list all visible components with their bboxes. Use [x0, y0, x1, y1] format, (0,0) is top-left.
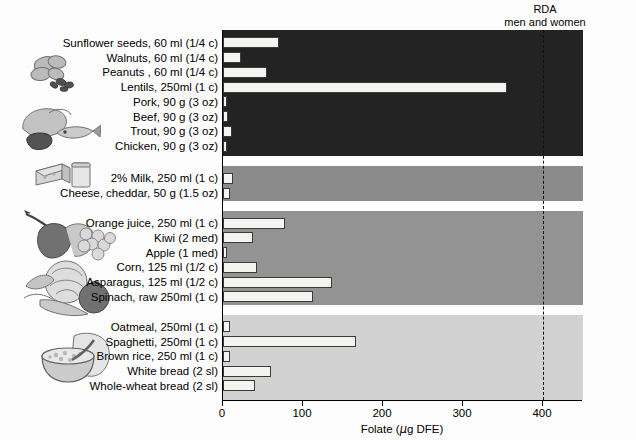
category-label-column: Sunflower seeds, 60 ml (1/4 c)Walnuts, 6… — [0, 0, 222, 440]
bar — [223, 321, 230, 332]
category-label: Cheese, cheddar, 50 g (1.5 oz) — [4, 187, 222, 199]
bar — [223, 380, 255, 391]
x-axis-tick — [222, 401, 223, 406]
category-label: White bread (2 sl) — [4, 365, 222, 377]
x-axis-title: Folate (µg DFE) — [222, 422, 582, 436]
x-axis-title-prefix: Folate ( — [361, 423, 400, 435]
category-label: Spinach, raw 250ml (1 c) — [4, 291, 222, 303]
food-group-band — [223, 30, 583, 156]
bar — [223, 188, 230, 199]
x-axis-tick-label: 200 — [372, 407, 391, 419]
x-axis-tick-label: 300 — [452, 407, 471, 419]
bar — [223, 336, 356, 347]
bar — [223, 262, 257, 273]
x-axis-tick — [302, 401, 303, 406]
category-label: Apple (1 med) — [4, 247, 222, 259]
x-axis: 0100200300400 — [222, 400, 582, 402]
category-label: Sunflower seeds, 60 ml (1/4 c) — [4, 37, 222, 49]
category-label: Kiwi (2 med) — [4, 232, 222, 244]
category-label: Beef, 90 g (3 oz) — [4, 111, 222, 123]
rda-label-line2: men and women — [470, 16, 620, 29]
bar — [223, 126, 232, 137]
x-axis-tick — [542, 401, 543, 406]
bar — [223, 291, 313, 302]
bar — [223, 82, 507, 93]
category-label: Oatmeal, 250ml (1 c) — [4, 321, 222, 333]
category-label: Orange juice, 250 ml (1 c) — [4, 217, 222, 229]
bar — [223, 67, 267, 78]
x-axis-title-suffix: g DFE) — [407, 423, 443, 435]
plot-area — [222, 30, 582, 400]
bar — [223, 173, 233, 184]
category-label: Peanuts , 60 ml (1/4 c) — [4, 66, 222, 78]
category-label: Spaghetti, 250ml (1 c) — [4, 336, 222, 348]
rda-annotation: RDA men and women — [470, 3, 620, 29]
bar — [223, 52, 241, 63]
rda-dashed-line — [543, 30, 544, 400]
category-label: 2% Milk, 250 ml (1 c) — [4, 172, 222, 184]
x-axis-tick-label: 400 — [532, 407, 551, 419]
food-group-band — [223, 166, 583, 200]
bar — [223, 247, 227, 258]
category-label: Trout, 90 g (3 oz) — [4, 125, 222, 137]
category-label: Pork, 90 g (3 oz) — [4, 96, 222, 108]
x-axis-tick — [382, 401, 383, 406]
bar — [223, 351, 230, 362]
bar — [223, 141, 227, 152]
category-label: Asparagus, 125 ml (1/2 c) — [4, 276, 222, 288]
rda-label-line1: RDA — [470, 3, 620, 16]
category-label: Chicken, 90 g (3 oz) — [4, 140, 222, 152]
bar — [223, 111, 228, 122]
bar — [223, 366, 271, 377]
food-group-band — [223, 315, 583, 400]
x-axis-tick — [462, 401, 463, 406]
category-label: Walnuts, 60 ml (1/4 c) — [4, 52, 222, 64]
bar — [223, 218, 285, 229]
x-axis-tick-label: 100 — [292, 407, 311, 419]
category-label: Corn, 125 ml (1/2 c) — [4, 261, 222, 273]
x-axis-title-mu: µ — [400, 422, 407, 436]
bar — [223, 96, 227, 107]
category-label: Whole-wheat bread (2 sl) — [4, 380, 222, 392]
bar — [223, 277, 332, 288]
bar — [223, 232, 253, 243]
bar — [223, 37, 279, 48]
folate-bar-chart-figure: RDA men and women — [0, 0, 636, 440]
category-label: Brown rice, 250 ml (1 c) — [4, 350, 222, 362]
category-label: Lentils, 250ml (1 c) — [4, 81, 222, 93]
x-axis-tick-label: 0 — [219, 407, 225, 419]
